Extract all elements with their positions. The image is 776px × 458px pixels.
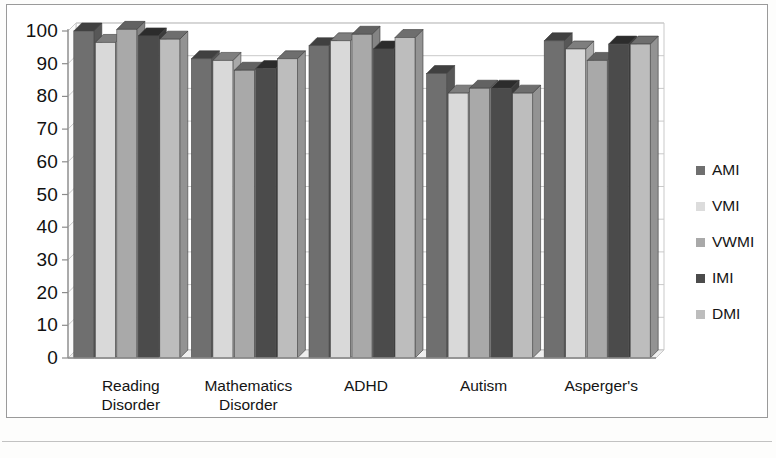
y-axis-tick-label: 10 <box>16 315 58 334</box>
legend-item-vmi[interactable]: VMI <box>696 188 776 224</box>
y-axis-tick-label: 70 <box>16 119 58 138</box>
legend-item-ami[interactable]: AMI <box>696 152 776 188</box>
y-axis-tick-label: 30 <box>16 250 58 269</box>
y-axis-tick-label: 20 <box>16 283 58 302</box>
legend-swatch-icon <box>696 274 705 283</box>
bar-chart: 1009080706050403020100 ReadingDisorderMa… <box>6 4 768 418</box>
bar <box>160 31 188 358</box>
legend-item-label: DMI <box>712 305 740 323</box>
legend-swatch-icon <box>696 238 705 247</box>
y-axis-tick-label: 80 <box>16 86 58 105</box>
chart-legend: AMIVMIVWMIIMIDMI <box>696 152 776 332</box>
legend-swatch-icon <box>696 202 705 211</box>
legend-swatch-icon <box>696 310 705 319</box>
scanned-page: 1009080706050403020100 ReadingDisorderMa… <box>0 0 776 458</box>
bar <box>277 51 305 358</box>
page-divider-rule <box>2 441 772 442</box>
y-axis-tick-label: 0 <box>16 348 58 367</box>
legend-item-label: AMI <box>712 161 740 179</box>
legend-item-dmi[interactable]: DMI <box>696 296 776 332</box>
legend-item-vwmi[interactable]: VWMI <box>696 224 776 260</box>
legend-item-imi[interactable]: IMI <box>696 260 776 296</box>
legend-item-label: IMI <box>712 269 734 287</box>
y-axis-ticks: 1009080706050403020100 <box>10 4 58 418</box>
bar <box>630 36 658 358</box>
x-axis-category-label: Asperger's <box>531 376 671 395</box>
plot-area <box>6 4 768 418</box>
legend-item-label: VWMI <box>712 233 754 251</box>
y-axis-tick-label: 100 <box>16 21 58 40</box>
legend-swatch-icon <box>696 166 705 175</box>
y-axis-tick-label: 90 <box>16 54 58 73</box>
y-axis-tick-label: 60 <box>16 152 58 171</box>
y-axis-tick-label: 40 <box>16 217 58 236</box>
bar <box>395 30 423 358</box>
y-axis-tick-label: 50 <box>16 185 58 204</box>
legend-item-label: VMI <box>712 197 740 215</box>
bar <box>513 85 541 358</box>
